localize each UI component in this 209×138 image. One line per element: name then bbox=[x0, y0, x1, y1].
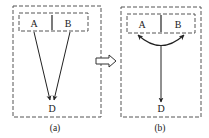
diagram-canvas: A B D (a) A B D (b) bbox=[0, 0, 209, 138]
panel-a-node-a: A bbox=[30, 18, 38, 29]
panel-b-caption: (b) bbox=[154, 123, 165, 134]
panel-b-node-d: D bbox=[157, 103, 164, 114]
panel-a-edge-b-to-d bbox=[54, 32, 70, 100]
panel-a-edge-a-to-d bbox=[34, 32, 50, 100]
panel-a: A B D (a) bbox=[13, 6, 101, 134]
panel-a-inner-box bbox=[19, 13, 88, 31]
panel-b-merge-arc bbox=[138, 35, 184, 46]
panel-b: A B D (b) bbox=[121, 7, 201, 134]
panel-b-node-a: A bbox=[138, 19, 146, 30]
panel-a-caption: (a) bbox=[50, 123, 61, 134]
panel-a-node-b: B bbox=[65, 18, 72, 29]
hollow-right-arrow-icon bbox=[96, 55, 116, 67]
panel-b-node-b: B bbox=[175, 19, 182, 30]
panel-a-node-d: D bbox=[48, 103, 55, 114]
